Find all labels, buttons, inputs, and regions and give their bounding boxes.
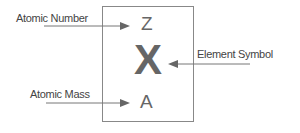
arrows [0, 0, 300, 133]
